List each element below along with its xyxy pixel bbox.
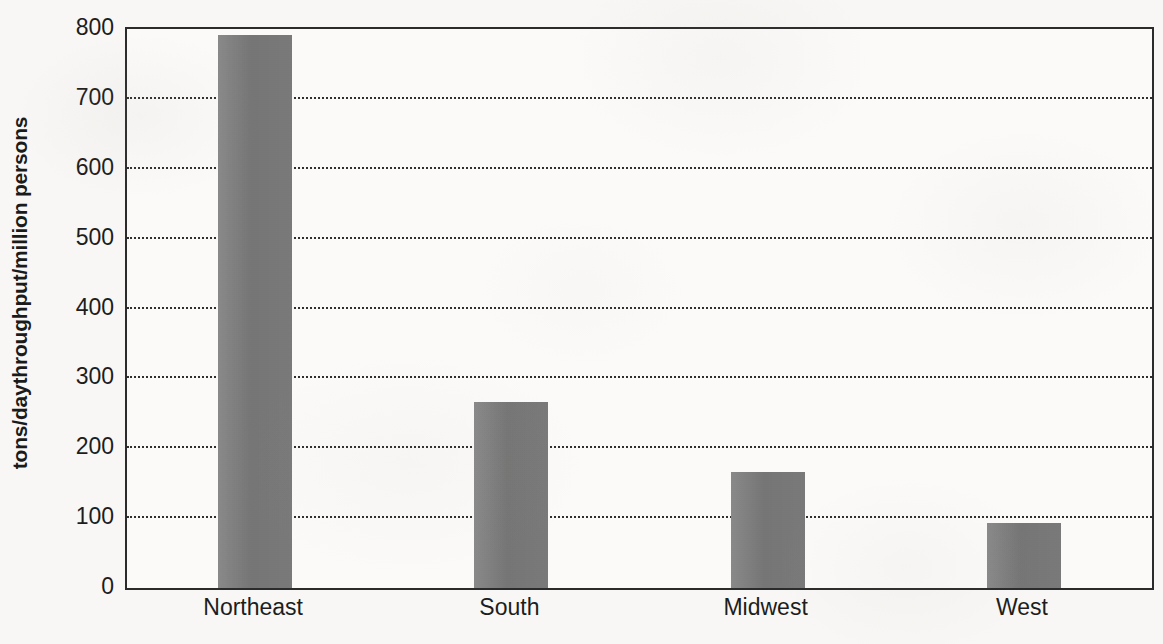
bar xyxy=(474,402,548,588)
y-tick-label: 800 xyxy=(24,16,114,39)
y-tick-label: 700 xyxy=(24,86,114,109)
x-tick-label: South xyxy=(409,596,609,619)
bar xyxy=(987,523,1061,588)
y-tick-label: 100 xyxy=(24,505,114,528)
y-tick-label: 200 xyxy=(24,435,114,458)
y-tick-label: 300 xyxy=(24,365,114,388)
plot-area xyxy=(125,27,1154,590)
bar xyxy=(731,472,805,588)
x-tick-label: Northeast xyxy=(153,596,353,619)
x-tick-label: West xyxy=(922,596,1122,619)
chart-figure: tons/daythroughput/million persons 01002… xyxy=(0,0,1163,644)
y-tick-label: 600 xyxy=(24,156,114,179)
y-tick-label: 0 xyxy=(24,575,114,598)
y-tick-label: 400 xyxy=(24,296,114,319)
x-tick-label: Midwest xyxy=(666,596,866,619)
y-tick-label: 500 xyxy=(24,226,114,249)
bar xyxy=(218,35,292,588)
plot-inner xyxy=(127,29,1152,588)
